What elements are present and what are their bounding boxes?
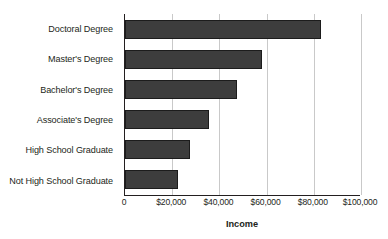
category-label-high-school-graduate: High School Graduate [0, 135, 118, 165]
category-label-bachelors-degree: Bachelor's Degree [0, 75, 118, 105]
bar-bachelor-s-degree [125, 80, 237, 99]
income-by-education-bar-chart: Doctoral Degree Master's Degree Bachelor… [0, 0, 388, 239]
x-tick-label: $100,000 [343, 197, 378, 207]
category-label-masters-degree: Master's Degree [0, 44, 118, 74]
bar-associate-s-degree [125, 110, 209, 129]
x-tick-label: $40,000 [203, 197, 233, 207]
x-axis-title: Income [124, 219, 360, 229]
bar-row [125, 105, 360, 135]
bar-row [125, 44, 360, 74]
bar-master-s-degree [125, 50, 262, 69]
bar-high-school-graduate [125, 140, 190, 159]
category-label-doctoral-degree: Doctoral Degree [0, 14, 118, 44]
bar-doctoral-degree [125, 20, 321, 39]
bar-row [125, 74, 360, 104]
plot-area [124, 14, 360, 196]
category-label-associates-degree: Associate's Degree [0, 105, 118, 135]
bar-row [125, 165, 360, 195]
x-tick-label: $80,000 [298, 197, 328, 207]
bar-series [125, 14, 360, 195]
x-tick-label: $20,000 [156, 197, 186, 207]
bar-row [125, 135, 360, 165]
bar-not-high-school-graduate [125, 170, 178, 189]
category-label-not-high-school-graduate: Not High School Graduate [0, 166, 118, 196]
x-tick-label: 0 [122, 197, 127, 207]
category-axis-labels: Doctoral Degree Master's Degree Bachelor… [0, 14, 118, 196]
bar-row [125, 14, 360, 44]
x-tick-label: $60,000 [251, 197, 281, 207]
gridline [361, 14, 362, 195]
x-axis-tick-labels: 0$20,000$40,000$60,000$80,000$100,000 [124, 197, 360, 211]
